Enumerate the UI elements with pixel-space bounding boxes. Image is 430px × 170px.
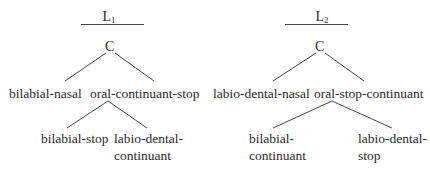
tree-l2-underline bbox=[285, 24, 348, 25]
tree-l1-title: L1 bbox=[96, 9, 122, 28]
tree-l2-title-text: L bbox=[315, 9, 324, 24]
tree-l1-underline bbox=[81, 24, 144, 25]
tree-l2-title: L2 bbox=[309, 9, 335, 28]
edge-l2-oral-left bbox=[273, 101, 332, 128]
edge-l1-oral-left bbox=[67, 101, 108, 128]
tree-l2-node-bilabial-continuant-line1: bilabial- bbox=[249, 131, 294, 147]
tree-l2-node-oral-stop-continuant: oral-stop-continuant bbox=[314, 86, 423, 102]
tree-l1-root: C bbox=[105, 39, 114, 55]
edge-l1-root-right bbox=[115, 53, 154, 81]
tree-l1-node-labio-dental-continuant-line1: labio-dental- bbox=[114, 131, 183, 147]
tree-l2-node-labio-dental-nasal: labio-dental-nasal bbox=[213, 86, 310, 102]
tree-l1-node-bilabial-stop: bilabial-stop bbox=[41, 131, 109, 147]
edge-l2-oral-right bbox=[332, 101, 392, 128]
edge-l2-root-right bbox=[325, 53, 364, 81]
tree-l1-node-oral-continuant-stop: oral-continuant-stop bbox=[90, 86, 199, 102]
tree-l2-node-bilabial-continuant-line2: continuant bbox=[249, 148, 306, 164]
tree-l2-root: C bbox=[315, 39, 324, 55]
edge-l1-root-left bbox=[65, 53, 106, 81]
tree-l1-title-text: L bbox=[102, 9, 111, 24]
tree-l2-node-labio-dental-stop-line1: labio-dental- bbox=[358, 131, 427, 147]
edge-l2-root-left bbox=[273, 53, 316, 81]
edge-l1-oral-right bbox=[108, 101, 147, 128]
tree-l1-node-labio-dental-continuant-line2: continuant bbox=[114, 148, 171, 164]
tree-l2-node-labio-dental-stop-line2: stop bbox=[358, 148, 381, 164]
tree-l1-node-bilabial-nasal: bilabial-nasal bbox=[9, 86, 82, 102]
